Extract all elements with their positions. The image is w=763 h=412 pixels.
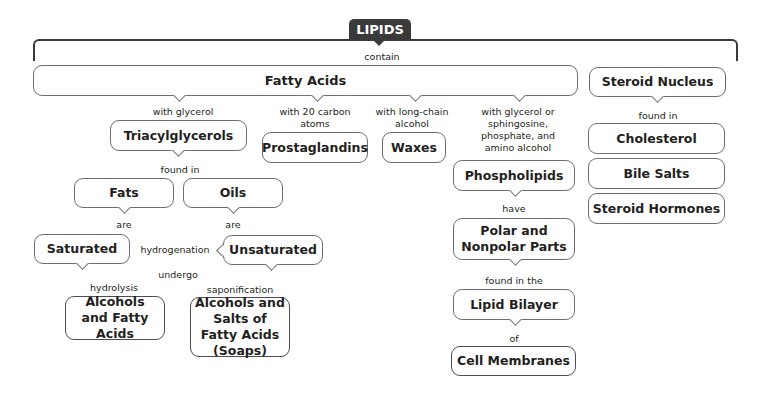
link-hydrolysis: hydrolysis (84, 282, 144, 294)
node-bile-salts: Bile Salts (588, 158, 725, 189)
node-waxes: Waxes (382, 132, 446, 163)
node-cholesterol: Cholesterol (588, 123, 725, 154)
link-are-oils: are (218, 219, 248, 231)
link-with-glycerol-sphingosine: with glycerol or sphingosine, phosphate,… (467, 106, 569, 154)
link-with-20-carbon: with 20 carbon atoms (272, 106, 358, 130)
link-are-fats: are (109, 219, 139, 231)
link-with-long-chain: with long-chain alcohol (370, 106, 454, 130)
node-prostaglandins: Prostaglandins (262, 132, 368, 163)
link-have: have (490, 203, 538, 215)
link-undergo: undergo (150, 269, 206, 281)
link-with-glycerol: with glycerol (133, 106, 233, 118)
link-found-in: found in (150, 164, 210, 176)
node-alcohols-fatty-acids: Alcohols and Fatty Acids (65, 296, 165, 340)
link-found-in-the: found in the (470, 275, 558, 287)
link-of: of (500, 333, 528, 345)
node-cell-membranes: Cell Membranes (451, 346, 576, 376)
link-contain: contain (360, 51, 404, 63)
title-pointer (373, 40, 385, 46)
node-fatty-acids: Fatty Acids (33, 65, 578, 96)
node-alcohols-salts-soaps: Alcohols and Salts of Fatty Acids (Soaps… (190, 297, 290, 357)
node-steroid-hormones: Steroid Hormones (588, 193, 725, 224)
lipids-title: LIPIDS (349, 19, 411, 40)
link-found-in-steroid: found in (620, 110, 696, 122)
link-hydrogenation: hydrogenation (135, 244, 215, 256)
